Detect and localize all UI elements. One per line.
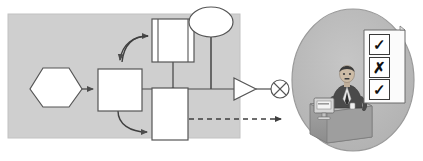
document-box[interactable]: [152, 19, 194, 62]
checklist-item[interactable]: ✗: [369, 57, 390, 78]
process-box[interactable]: [98, 69, 142, 111]
diagram-canvas: ✓ ✗ ✓: [0, 0, 423, 161]
lower-box[interactable]: [152, 88, 188, 140]
diagram-svg: [0, 0, 423, 161]
checklist-item[interactable]: ✓: [369, 79, 390, 100]
crossed-circle-node[interactable]: [271, 80, 289, 98]
desk-cup: [350, 103, 355, 109]
checklist-items: ✓ ✗ ✓: [369, 34, 401, 100]
triangle-node[interactable]: [234, 78, 256, 100]
ellipse-node[interactable]: [189, 7, 233, 37]
checklist-item[interactable]: ✓: [369, 34, 390, 55]
